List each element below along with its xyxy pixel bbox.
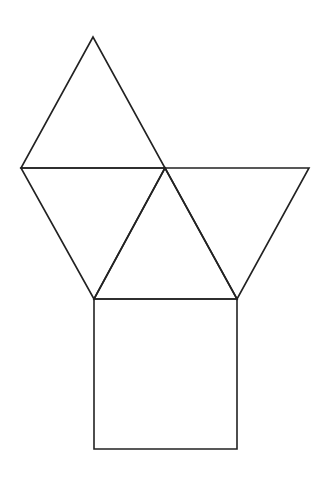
geometry-net-diagram: [0, 0, 326, 478]
triangle-left: [21, 168, 165, 299]
triangle-middle: [94, 168, 237, 299]
square-bottom: [94, 299, 237, 449]
triangle-top: [21, 37, 165, 168]
triangle-right: [165, 168, 309, 299]
